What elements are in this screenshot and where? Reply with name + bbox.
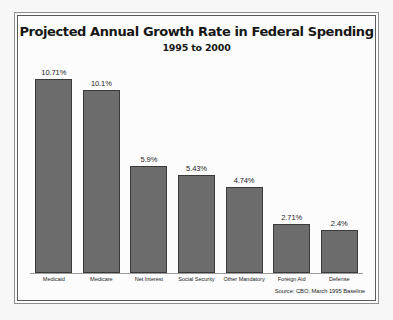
bar-group: 2.4%	[321, 60, 358, 273]
bar-rect	[273, 224, 310, 273]
bar-value-label: 2.71%	[273, 213, 310, 222]
category-label: Defense	[315, 276, 363, 282]
chart-subtitle: 1995 to 2000	[18, 42, 375, 54]
bar-group: 10.1%	[83, 60, 120, 273]
plot-area: 10.71%10.1%5.9%5.43%4.74%2.71%2.4%	[30, 60, 363, 273]
bar-value-label: 2.4%	[321, 219, 358, 228]
bar-rect	[178, 175, 215, 273]
bar-value-label: 5.9%	[130, 155, 167, 164]
category-label: Medicare	[78, 276, 126, 282]
bar-rect	[83, 90, 120, 273]
bar-group: 4.74%	[226, 60, 263, 273]
category-label: Medicaid	[30, 276, 78, 282]
bar-value-label: 10.1%	[83, 79, 120, 88]
bar-value-label: 10.71%	[35, 68, 72, 77]
bar-group: 5.43%	[178, 60, 215, 273]
bar-group: 10.71%	[35, 60, 72, 273]
chart-plate: Projected Annual Growth Rate in Federal …	[18, 16, 375, 300]
bar-rect	[35, 79, 72, 273]
bar-group: 5.9%	[130, 60, 167, 273]
bar-value-label: 5.43%	[178, 164, 215, 173]
category-label: Foreign Aid	[268, 276, 316, 282]
bar-rect	[321, 230, 358, 273]
bar-rect	[226, 187, 263, 273]
bar-rect	[130, 166, 167, 273]
bar-group: 2.71%	[273, 60, 310, 273]
category-axis: MedicaidMedicareNet InterestSocial Secur…	[30, 276, 363, 288]
category-label: Social Security	[173, 276, 221, 282]
scanned-page: Projected Annual Growth Rate in Federal …	[0, 0, 393, 320]
source-note: Source: CBO, March 1995 Baseline	[275, 288, 365, 294]
chart-title-block: Projected Annual Growth Rate in Federal …	[18, 24, 375, 54]
axis-baseline	[30, 273, 363, 274]
category-label: Net Interest	[125, 276, 173, 282]
category-label: Other Mandatory	[220, 276, 268, 282]
chart-title: Projected Annual Growth Rate in Federal …	[18, 24, 375, 39]
bar-value-label: 4.74%	[226, 176, 263, 185]
